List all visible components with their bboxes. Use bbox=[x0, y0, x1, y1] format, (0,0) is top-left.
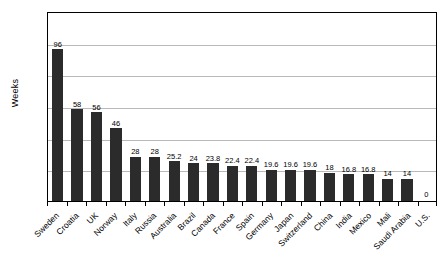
bar-value-label: 24 bbox=[189, 155, 197, 163]
bar-slot: 19.6 bbox=[261, 13, 280, 201]
bars-container: 96585646282825.22423.822.422.419.619.619… bbox=[48, 13, 436, 201]
bar-slot: 23.8 bbox=[203, 13, 222, 201]
bar-slot: 56 bbox=[87, 13, 106, 201]
bar-value-label: 28 bbox=[151, 148, 159, 156]
bar: 23.8 bbox=[207, 163, 218, 201]
bar-value-label: 18 bbox=[325, 164, 333, 172]
bar: 22.4 bbox=[227, 166, 238, 201]
bar: 18 bbox=[324, 173, 335, 202]
bar-slot: 14 bbox=[397, 13, 416, 201]
x-axis-label-slot: India bbox=[340, 207, 360, 277]
bar-chart: Weeks 120100806040200 96585646282825.224… bbox=[0, 0, 445, 279]
plot-area: 120100806040200 96585646282825.22423.822… bbox=[47, 12, 437, 202]
bar-slot: 18 bbox=[320, 13, 339, 201]
x-axis-label-slot: Russia bbox=[145, 207, 165, 277]
bar-slot: 19.6 bbox=[281, 13, 300, 201]
bar: 16.8 bbox=[343, 174, 354, 201]
bar: 24 bbox=[188, 163, 199, 201]
bar: 14 bbox=[401, 179, 412, 201]
bar: 46 bbox=[110, 128, 121, 201]
bar: 19.6 bbox=[266, 170, 277, 201]
bar-slot: 16.8 bbox=[359, 13, 378, 201]
bar-slot: 25.2 bbox=[164, 13, 183, 201]
bar: 19.6 bbox=[304, 170, 315, 201]
x-axis-label-slot: Australia bbox=[164, 207, 184, 277]
x-axis-label-slot: China bbox=[320, 207, 340, 277]
bar-value-label: 19.6 bbox=[283, 161, 298, 169]
x-axis-label-slot: France bbox=[223, 207, 243, 277]
bar: 14 bbox=[382, 179, 393, 201]
bar-slot: 19.6 bbox=[300, 13, 319, 201]
x-axis-label-slot: Switzerland bbox=[301, 207, 321, 277]
x-axis-label-slot: Brazil bbox=[184, 207, 204, 277]
x-axis-label-slot: Croatia bbox=[67, 207, 87, 277]
bar: 28 bbox=[149, 157, 160, 201]
bar-value-label: 56 bbox=[92, 104, 100, 112]
bar-slot: 28 bbox=[145, 13, 164, 201]
bar-slot: 22.4 bbox=[223, 13, 242, 201]
bar-value-label: 22.4 bbox=[225, 157, 240, 165]
bar-value-label: 25.2 bbox=[167, 153, 182, 161]
bar-value-label: 22.4 bbox=[244, 157, 259, 165]
bar: 22.4 bbox=[246, 166, 257, 201]
bar-slot: 96 bbox=[48, 13, 67, 201]
x-axis-label-slot: UK bbox=[86, 207, 106, 277]
bar: 16.8 bbox=[363, 174, 374, 201]
x-axis-category-label: Sweden bbox=[33, 211, 61, 239]
bar-value-label: 19.6 bbox=[303, 161, 318, 169]
x-axis-label-slot: Canada bbox=[203, 207, 223, 277]
x-axis-label-slot: Spain bbox=[242, 207, 262, 277]
bar-value-label: 28 bbox=[131, 148, 139, 156]
x-axis-label-slot: U.S. bbox=[418, 207, 438, 277]
bar: 58 bbox=[71, 109, 82, 201]
x-axis-labels: SwedenCroatiaUKNorwayItalyRussiaAustrali… bbox=[47, 207, 437, 277]
bar: 28 bbox=[130, 157, 141, 201]
x-axis-label-slot: Saudi Arabia bbox=[398, 207, 418, 277]
bar-slot: 14 bbox=[378, 13, 397, 201]
bar-slot: 24 bbox=[184, 13, 203, 201]
bar-value-label: 14 bbox=[403, 170, 411, 178]
bar-value-label: 96 bbox=[54, 41, 62, 49]
bar: 25.2 bbox=[169, 161, 180, 201]
bar-value-label: 14 bbox=[383, 170, 391, 178]
bar-value-label: 46 bbox=[112, 120, 120, 128]
bar: 56 bbox=[91, 112, 102, 201]
y-axis-title: Weeks bbox=[10, 58, 20, 128]
bar-slot: 46 bbox=[106, 13, 125, 201]
x-axis-label-slot: Norway bbox=[106, 207, 126, 277]
bar-value-label: 19.6 bbox=[264, 161, 279, 169]
bar-slot: 58 bbox=[67, 13, 86, 201]
bar-slot: 28 bbox=[126, 13, 145, 201]
bar: 19.6 bbox=[285, 170, 296, 201]
x-axis-label-slot: Sweden bbox=[47, 207, 67, 277]
bar-value-label: 23.8 bbox=[206, 155, 221, 163]
bar-slot: 0 bbox=[417, 13, 436, 201]
bar-value-label: 0 bbox=[424, 191, 428, 199]
bar-value-label: 16.8 bbox=[341, 166, 356, 174]
bar-value-label: 58 bbox=[73, 101, 81, 109]
bar-value-label: 16.8 bbox=[361, 166, 376, 174]
bar-slot: 22.4 bbox=[242, 13, 261, 201]
bar-slot: 16.8 bbox=[339, 13, 358, 201]
x-axis-label-slot: Italy bbox=[125, 207, 145, 277]
bar: 96 bbox=[52, 49, 63, 201]
